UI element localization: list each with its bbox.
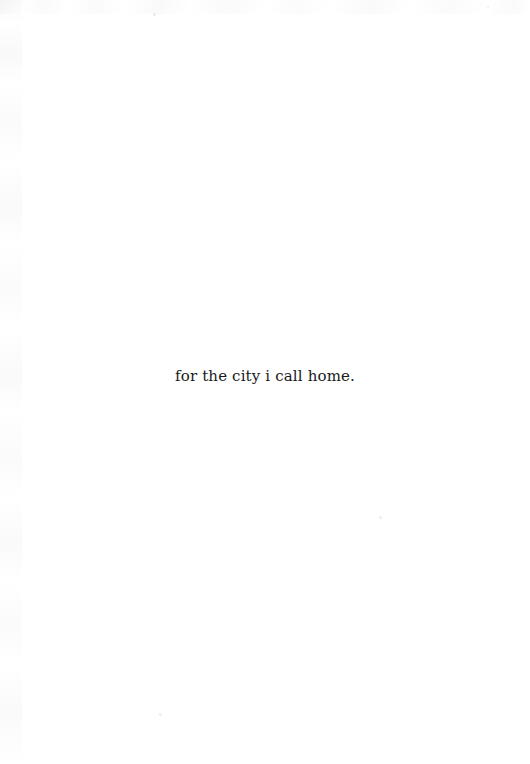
dedication-page: for the city i call home. [0, 0, 530, 764]
dedication-block: for the city i call home. [0, 0, 530, 764]
dedication-text: for the city i call home. [0, 366, 530, 386]
